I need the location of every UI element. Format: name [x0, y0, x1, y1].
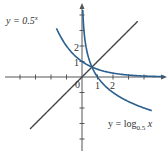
exp-curve-label: y = 0.5x: [5, 14, 39, 26]
log-curve-label: y = log0.5 x: [108, 118, 153, 132]
y-tick-label-1: 1: [74, 57, 79, 68]
x-tick-label-1: 1: [95, 80, 100, 91]
curve-exponential: [56, 28, 164, 76]
y-tick-label-2: 2: [74, 42, 79, 53]
x-tick-label-2: 2: [110, 80, 115, 91]
graph: y = 0.5x y = log0.5 x 0 1 2 1 2: [0, 0, 168, 154]
y-axis-arrow-icon: [80, 3, 85, 9]
curve-logarithmic: [83, 10, 152, 111]
origin-label: 0: [75, 79, 80, 90]
